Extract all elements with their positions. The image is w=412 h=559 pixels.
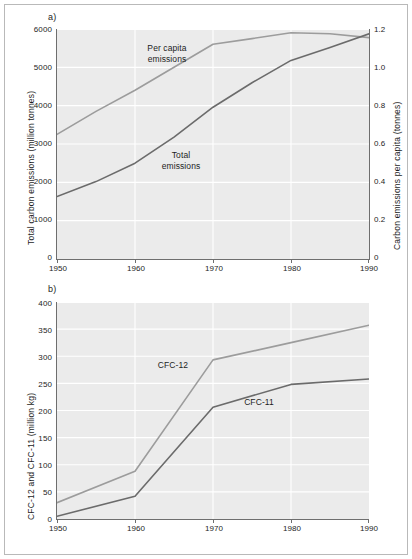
panel-b-xtick-1980-mark <box>291 520 292 523</box>
panel-a-y-left-axis <box>56 29 57 260</box>
panel-a-y2tick-0.2: 0.2 <box>374 215 398 224</box>
panel-a-xtick-1980-mark <box>291 260 292 263</box>
panel-a-xtick-1990: 1990 <box>354 264 384 273</box>
panel-b-xtick-1980: 1980 <box>277 524 307 533</box>
panel-a-ytick-2000: 2000 <box>24 177 52 186</box>
panel-a-xtick-1950-mark <box>57 260 58 263</box>
panel-b-ytick-350: 350 <box>24 326 52 335</box>
panel-b-ytick-150: 150 <box>24 434 52 443</box>
panel-b-xtick-1990-mark <box>368 520 369 523</box>
panel-a-y2tick-0: 0 <box>374 253 398 262</box>
panel-b-label: b) <box>48 284 56 294</box>
panel-b-xtick-1950: 1950 <box>43 524 73 533</box>
panel-a-ytick-1000: 1000 <box>24 215 52 224</box>
panel-a-ytick-6000: 6000 <box>24 25 52 34</box>
panel-b-ytick-300: 300 <box>24 353 52 362</box>
panel-b-ytick-100: 100 <box>24 461 52 470</box>
panel-b-plot-area <box>57 302 369 519</box>
panel-a-xtick-1990-mark <box>368 260 369 263</box>
panel-a-plot-area <box>57 29 369 259</box>
panel-b-xtick-1960: 1960 <box>121 524 151 533</box>
panel-a-xtick-1960: 1960 <box>121 264 151 273</box>
panel-b-xtick-1950-mark <box>57 520 58 523</box>
panel-b-xtick-1970: 1970 <box>199 524 229 533</box>
chart-panel-b: b) CFC-12 and CFC-11 (million kg) 0 50 1… <box>0 280 412 559</box>
panel-a-xtick-1960-mark <box>135 260 136 263</box>
panel-a-svg <box>57 29 369 259</box>
panel-b-xtick-1970-mark <box>213 520 214 523</box>
chart-panel-a: a) Total carbon emissions (million tonne… <box>0 0 412 280</box>
panel-a-y2tick-0.8: 0.8 <box>374 101 398 110</box>
panel-b-ytick-250: 250 <box>24 380 52 389</box>
panel-b-y-left-axis <box>56 302 57 520</box>
panel-a-y2tick-0.6: 0.6 <box>374 139 398 148</box>
panel-b-ytick-400: 400 <box>24 299 52 308</box>
panel-b-xtick-1990: 1990 <box>354 524 384 533</box>
panel-b-label-cfc11: CFC-11 <box>236 397 282 408</box>
figure-root: a) Total carbon emissions (million tonne… <box>0 0 412 559</box>
panel-a-ytick-4000: 4000 <box>24 101 52 110</box>
panel-a-xtick-1970: 1970 <box>199 264 229 273</box>
panel-b-svg <box>57 302 369 519</box>
panel-a-ytick-5000: 5000 <box>24 63 52 72</box>
panel-a-y2tick-1.0: 1.0 <box>374 63 398 72</box>
panel-b-label-cfc12: CFC-12 <box>150 360 196 371</box>
panel-a-label-total: Total emissions <box>150 150 212 171</box>
panel-a-ytick-3000: 3000 <box>24 139 52 148</box>
panel-a-label-per-capita: Per capita emissions <box>136 43 198 64</box>
panel-b-ytick-50: 50 <box>24 488 52 497</box>
panel-a-y2tick-0.4: 0.4 <box>374 177 398 186</box>
panel-a-xtick-1950: 1950 <box>43 264 73 273</box>
panel-b-ytick-200: 200 <box>24 407 52 416</box>
panel-a-ytick-0: 0 <box>24 253 52 262</box>
panel-a-xtick-1970-mark <box>213 260 214 263</box>
panel-b-ytick-0: 0 <box>24 515 52 524</box>
panel-a-y2tick-1.2: 1.2 <box>374 25 398 34</box>
panel-a-xtick-1980: 1980 <box>277 264 307 273</box>
panel-b-xtick-1960-mark <box>135 520 136 523</box>
panel-a-label: a) <box>48 12 56 22</box>
panel-a-y-right-axis <box>369 29 370 260</box>
panel-a-y-right-title: Carbon emissions per capita (tonnes) <box>392 102 402 250</box>
